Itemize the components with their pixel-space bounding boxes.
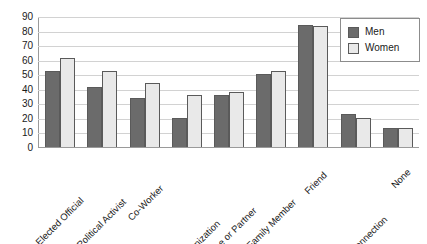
bar-group xyxy=(39,17,81,147)
y-axis-tick-label: 90 xyxy=(22,12,33,22)
y-axis-tick-label: 80 xyxy=(22,27,33,37)
x-axis-tick-slot: Political Activist xyxy=(81,149,123,244)
x-axis-tick-slot: Co-Worker xyxy=(124,149,166,244)
bar-women xyxy=(313,26,328,147)
legend-item-women: Women xyxy=(348,40,413,56)
y-axis-tick-label: 0 xyxy=(27,143,33,153)
bar-men xyxy=(130,98,145,147)
x-axis-tick-slot: Religious Connection xyxy=(335,149,377,244)
x-axis-tick-label: Co-Worker xyxy=(126,183,166,223)
bar-women xyxy=(398,128,413,147)
bar-group xyxy=(166,17,208,147)
x-axis-tick-labels: Elected OfficialPolitical ActivistCo-Wor… xyxy=(39,149,420,244)
x-axis-tick-slot: None xyxy=(378,149,420,244)
bar-group xyxy=(250,17,292,147)
bar-men xyxy=(172,118,187,147)
bar-men xyxy=(214,95,229,147)
y-axis-tick-label: 60 xyxy=(22,56,33,66)
bar-men xyxy=(341,114,356,147)
x-axis-line xyxy=(38,147,419,148)
bar-group xyxy=(123,17,165,147)
y-axis-tick-label: 40 xyxy=(22,85,33,95)
legend-item-men: Men xyxy=(348,24,413,40)
x-axis-tick-slot: Women's Organization xyxy=(166,149,208,244)
x-axis-tick-label: Friend xyxy=(303,170,329,196)
x-axis-tick-label: Family Member xyxy=(245,197,299,244)
bar-women xyxy=(145,83,160,147)
bar-group xyxy=(81,17,123,147)
bar-women xyxy=(60,58,75,147)
bar-men xyxy=(383,128,398,147)
bar-women xyxy=(102,71,117,147)
x-axis-tick-label: None xyxy=(389,167,412,190)
y-axis-tick-labels: 9080706050403020100 xyxy=(0,17,33,148)
legend-swatch-women-icon xyxy=(348,43,359,54)
y-axis-tick-label: 10 xyxy=(22,128,33,138)
bar-men xyxy=(298,25,313,147)
bar-women xyxy=(271,71,286,147)
bar-group xyxy=(208,17,250,147)
y-axis-tick-label: 20 xyxy=(22,114,33,124)
legend-label-men: Men xyxy=(365,27,384,37)
x-axis-tick-slot: Friend xyxy=(293,149,335,244)
x-axis-tick-slot: Family Member xyxy=(251,149,293,244)
x-axis-tick-slot: Elected Official xyxy=(39,149,81,244)
y-axis-tick-label: 50 xyxy=(22,70,33,80)
x-axis-tick-label: Political Activist xyxy=(76,197,129,244)
bar-women xyxy=(356,118,371,147)
legend-label-women: Women xyxy=(365,43,399,53)
bar-men xyxy=(256,74,271,147)
y-axis-tick-label: 30 xyxy=(22,99,33,109)
x-axis-tick-slot: Spouse or Partner xyxy=(208,149,250,244)
bar-group xyxy=(292,17,334,147)
chart-legend: Men Women xyxy=(340,18,420,62)
legend-swatch-men-icon xyxy=(348,27,359,38)
y-axis-tick-label: 70 xyxy=(22,41,33,51)
bar-men xyxy=(87,87,102,147)
bar-chart: 9080706050403020100 Elected OfficialPoli… xyxy=(0,0,427,244)
bar-men xyxy=(45,71,60,147)
bar-women xyxy=(229,92,244,147)
bar-women xyxy=(187,95,202,147)
